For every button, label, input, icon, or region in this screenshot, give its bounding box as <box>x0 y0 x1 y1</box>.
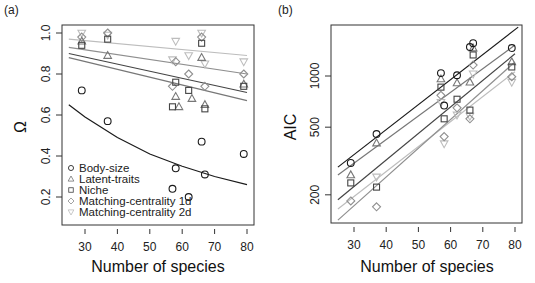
x-tick-label: 60 <box>176 240 190 254</box>
x-tick-label: 80 <box>240 240 254 254</box>
diamond-marker-icon <box>185 70 193 78</box>
square-marker-icon <box>348 180 354 186</box>
x-tick-label: 80 <box>508 238 522 252</box>
triangle-up-marker-icon <box>68 176 74 181</box>
x-tick-label: 30 <box>78 240 92 254</box>
triangle-down-marker-icon <box>68 210 74 215</box>
series-niche <box>348 52 515 190</box>
circle-marker-icon <box>240 151 247 158</box>
x-tick-label: 70 <box>476 238 490 252</box>
y-tick-label: 0.2 <box>39 188 53 205</box>
fit-line-matching-centrality-1d <box>338 62 515 220</box>
square-marker-icon <box>186 87 192 93</box>
triangle-up-marker-icon <box>188 95 196 102</box>
y-tick-label: 500 <box>308 117 322 137</box>
diamond-marker-icon <box>440 133 448 141</box>
x-tick-label: 40 <box>111 240 125 254</box>
triangle-down-marker-icon <box>240 59 248 66</box>
circle-marker-icon <box>104 118 111 125</box>
x-tick-label: 40 <box>380 238 394 252</box>
triangle-up-marker-icon <box>172 93 180 100</box>
square-marker-icon <box>79 42 85 48</box>
series-body-size <box>347 40 515 167</box>
square-marker-icon <box>202 106 208 112</box>
figure: (a)304050607080Number of species0.20.40.… <box>0 0 535 283</box>
triangle-up-marker-icon <box>198 54 206 61</box>
fit-line-niche <box>69 54 247 93</box>
square-marker-icon <box>470 52 476 58</box>
square-marker-icon <box>69 188 74 193</box>
circle-marker-icon <box>169 185 176 192</box>
triangle-down-marker-icon <box>172 38 180 45</box>
x-tick-label: 50 <box>412 238 426 252</box>
panel-a: (a)304050607080Number of species0.20.40.… <box>4 3 254 275</box>
fit-line-matching-centrality-2d <box>69 39 247 55</box>
circle-marker-icon <box>68 165 73 170</box>
circle-marker-icon <box>78 87 85 94</box>
panel-label: (a) <box>4 3 19 17</box>
y-tick-label: 0.6 <box>39 106 53 123</box>
series-matching-centrality-1d <box>78 29 248 90</box>
chart-canvas: (a)304050607080Number of species0.20.40.… <box>0 0 535 283</box>
y-axis: 2005001000AIC <box>282 62 331 205</box>
triangle-up-marker-icon <box>466 78 474 85</box>
x-tick-label: 50 <box>143 240 157 254</box>
x-tick-label: 60 <box>444 238 458 252</box>
square-marker-icon <box>441 116 447 122</box>
y-axis: 0.20.40.60.81.0Ω <box>12 24 62 205</box>
y-tick-label: 0.8 <box>39 65 53 82</box>
series-latent-traits <box>347 44 516 178</box>
diamond-marker-icon <box>437 91 445 99</box>
triangle-up-marker-icon <box>453 79 461 86</box>
circle-marker-icon <box>172 165 179 172</box>
triangle-up-marker-icon <box>175 103 183 110</box>
fit-line-latent-traits <box>69 58 247 101</box>
square-marker-icon <box>169 104 175 110</box>
panel-b: (b)304050607080Number of species20050010… <box>278 3 522 275</box>
y-tick-label: 0.4 <box>39 147 53 164</box>
diamond-marker-icon <box>373 203 381 211</box>
diamond-marker-icon <box>68 198 74 204</box>
series-matching-centrality-2d <box>78 30 248 68</box>
x-axis: 304050607080Number of species <box>78 229 254 275</box>
y-tick-label: 1000 <box>308 62 322 89</box>
circle-marker-icon <box>198 138 205 145</box>
x-axis-title: Number of species <box>91 258 224 275</box>
fit-line-body-size <box>338 27 518 167</box>
x-tick-label: 30 <box>347 238 361 252</box>
x-axis: 304050607080Number of species <box>347 227 522 275</box>
triangle-down-marker-icon <box>440 141 448 148</box>
plot-frame <box>331 25 522 223</box>
y-axis-title: AIC <box>282 114 299 141</box>
panel-label: (b) <box>278 3 293 17</box>
x-axis-title: Number of species <box>360 258 493 275</box>
x-tick-label: 70 <box>208 240 222 254</box>
y-axis-title: Ω <box>12 121 29 133</box>
y-tick-label: 200 <box>308 184 322 204</box>
triangle-up-marker-icon <box>373 139 381 146</box>
triangle-up-marker-icon <box>347 171 355 178</box>
triangle-down-marker-icon <box>185 53 193 60</box>
fit-line-niche <box>338 54 515 200</box>
fit-line-latent-traits <box>338 45 515 175</box>
fit-line-matching-centrality-1d <box>69 47 247 74</box>
y-tick-label: 1.0 <box>39 24 53 41</box>
legend-label: Matching-centrality 2d <box>79 206 192 218</box>
